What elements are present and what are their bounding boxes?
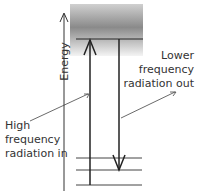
lower-levels	[76, 158, 142, 185]
energy-axis-label: Energy	[58, 42, 71, 82]
incoming-label-line: radiation in	[5, 147, 68, 161]
absorption-arrow	[84, 40, 96, 185]
outgoing-label-line: frequency	[123, 63, 194, 77]
outgoing-leader-line	[121, 92, 175, 118]
incoming-label-line: High	[5, 119, 68, 133]
energy-axis	[60, 13, 68, 191]
incoming-label: High frequency radiation in	[5, 119, 68, 161]
outgoing-label-line: Lower	[123, 49, 194, 63]
incoming-leader-line	[30, 94, 88, 121]
incoming-label-line: frequency	[5, 133, 68, 147]
outgoing-label-line: radiation out	[123, 77, 194, 91]
energy-level-diagram	[0, 0, 198, 193]
outgoing-label: Lower frequency radiation out	[123, 49, 194, 91]
